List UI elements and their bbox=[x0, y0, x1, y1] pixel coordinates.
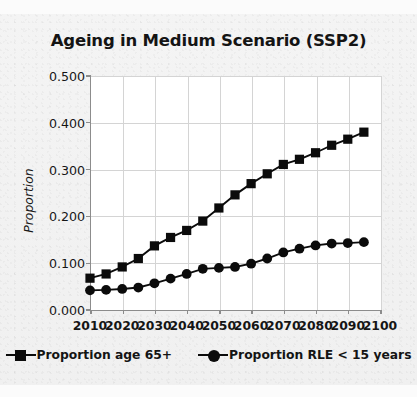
figure-root: Ageing in Medium Scenario (SSP2) Proport… bbox=[0, 0, 417, 397]
data-point-square bbox=[182, 226, 191, 235]
data-point-circle bbox=[262, 254, 272, 264]
chart-card: Ageing in Medium Scenario (SSP2) Proport… bbox=[18, 18, 399, 380]
data-point-square bbox=[327, 141, 336, 150]
data-point-circle bbox=[166, 274, 176, 284]
x-tick-label: 2100 bbox=[357, 318, 403, 333]
chart-legend: Proportion age 65+Proportion RLE < 15 ye… bbox=[18, 348, 399, 362]
data-point-square bbox=[102, 269, 111, 278]
series-line bbox=[90, 132, 364, 278]
data-point-square bbox=[85, 274, 94, 283]
legend-entry-2[interactable]: Proportion RLE < 15 years bbox=[198, 348, 411, 362]
y-tick-label: 0.300 bbox=[27, 162, 85, 177]
series-1 bbox=[85, 128, 368, 283]
data-point-circle bbox=[182, 269, 192, 279]
data-point-circle bbox=[246, 259, 256, 269]
data-point-circle bbox=[278, 248, 288, 258]
chart-title: Ageing in Medium Scenario (SSP2) bbox=[18, 31, 399, 50]
data-point-square bbox=[359, 128, 368, 137]
data-point-square bbox=[118, 262, 127, 271]
data-point-circle bbox=[295, 244, 305, 254]
data-point-square bbox=[134, 254, 143, 263]
series-2 bbox=[85, 237, 369, 295]
data-point-circle bbox=[214, 263, 224, 273]
scan-edge-top bbox=[0, 0, 417, 14]
x-tick-mark bbox=[251, 310, 252, 314]
data-point-square bbox=[214, 203, 223, 212]
x-tick-mark bbox=[284, 310, 285, 314]
x-tick-mark bbox=[123, 310, 124, 314]
data-point-circle bbox=[343, 238, 353, 248]
x-tick-mark bbox=[155, 310, 156, 314]
data-point-circle bbox=[230, 262, 240, 272]
y-tick-label: 0.000 bbox=[27, 303, 85, 318]
scan-edge-bottom bbox=[0, 385, 417, 397]
x-tick-mark bbox=[316, 310, 317, 314]
data-point-square bbox=[198, 216, 207, 225]
data-point-square bbox=[230, 190, 239, 199]
y-tick-label: 0.500 bbox=[27, 69, 85, 84]
series-line bbox=[90, 242, 364, 290]
data-point-square bbox=[150, 241, 159, 250]
data-point-circle bbox=[133, 283, 143, 293]
x-tick-mark bbox=[348, 310, 349, 314]
legend-marker-glyph bbox=[208, 350, 220, 362]
data-point-circle bbox=[311, 241, 321, 251]
x-tick-mark bbox=[380, 310, 381, 314]
data-point-circle bbox=[359, 237, 369, 247]
data-point-square bbox=[247, 179, 256, 188]
data-point-square bbox=[295, 155, 304, 164]
gridline-vertical bbox=[381, 76, 382, 310]
legend-label: Proportion age 65+ bbox=[37, 348, 173, 362]
data-point-circle bbox=[150, 278, 160, 288]
data-point-square bbox=[263, 169, 272, 178]
x-tick-mark bbox=[90, 310, 91, 314]
legend-square-marker-icon bbox=[6, 348, 36, 362]
data-point-circle bbox=[327, 239, 337, 249]
legend-marker-glyph bbox=[15, 350, 26, 361]
legend-entry-1[interactable]: Proportion age 65+ bbox=[6, 348, 173, 362]
data-point-square bbox=[343, 135, 352, 144]
x-tick-mark bbox=[187, 310, 188, 314]
data-point-square bbox=[166, 233, 175, 242]
data-point-square bbox=[279, 160, 288, 169]
data-point-circle bbox=[85, 285, 95, 295]
data-point-circle bbox=[117, 284, 127, 294]
series-layer bbox=[90, 76, 380, 310]
legend-label: Proportion RLE < 15 years bbox=[229, 348, 411, 362]
data-point-circle bbox=[198, 264, 208, 274]
y-tick-label: 0.100 bbox=[27, 256, 85, 271]
data-point-circle bbox=[101, 285, 111, 295]
x-tick-mark bbox=[219, 310, 220, 314]
data-point-square bbox=[311, 148, 320, 157]
y-tick-label: 0.400 bbox=[27, 115, 85, 130]
y-tick-label: 0.200 bbox=[27, 209, 85, 224]
legend-circle-marker-icon bbox=[198, 348, 228, 362]
